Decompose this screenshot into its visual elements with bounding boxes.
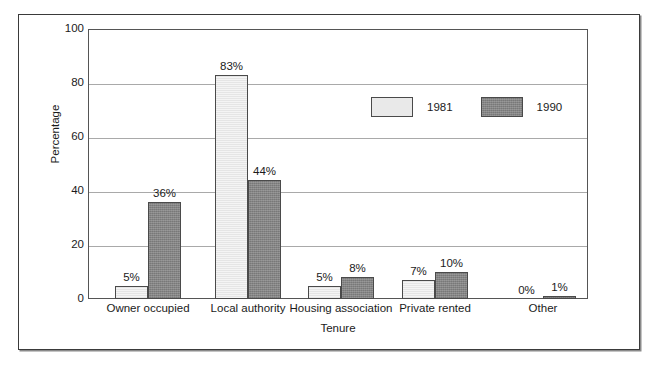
x-axis-tick-label: Other: [463, 302, 623, 314]
bar-chart-figure: Percentage 100806040200 5%36%83%44%5%8%7…: [0, 0, 661, 369]
y-axis-tick-label: 40: [44, 185, 84, 196]
legend-swatch-1981: [371, 97, 413, 117]
legend-label-1990: 1990: [537, 101, 563, 113]
y-axis-tick-label: 100: [44, 23, 84, 34]
legend-entry-1981: 1981: [371, 97, 481, 117]
gridline: [89, 192, 587, 193]
gridline: [89, 138, 587, 139]
y-axis-tick-label: 20: [44, 239, 84, 250]
legend-label-1981: 1981: [427, 101, 453, 113]
y-axis-tick-label: 60: [44, 131, 84, 142]
legend-swatch-1990: [481, 97, 523, 117]
chart-legend: 19811990: [371, 97, 590, 117]
plot-area: [88, 29, 588, 299]
x-axis-tick-labels: Owner occupiedLocal authorityHousing ass…: [88, 302, 588, 320]
y-axis-tick-label: 80: [44, 77, 84, 88]
x-axis-title: Tenure: [88, 322, 588, 334]
gridline: [89, 84, 587, 85]
gridline: [89, 246, 587, 247]
legend-entry-1990: 1990: [481, 97, 591, 117]
y-axis-tick-labels: 100806040200: [40, 29, 84, 299]
